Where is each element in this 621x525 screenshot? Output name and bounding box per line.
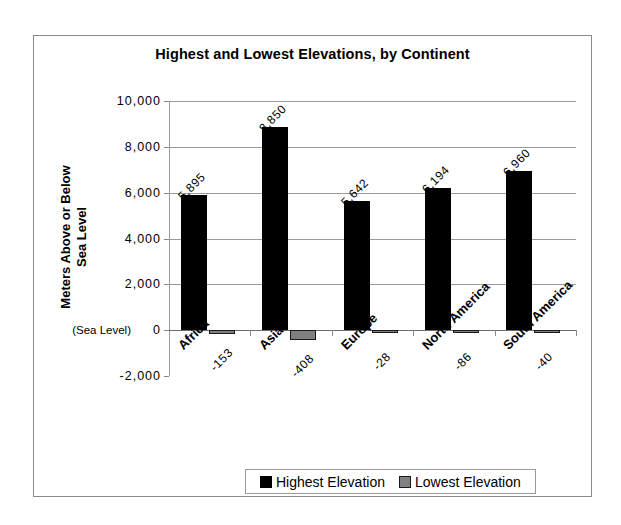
y-tick-label-10000: 10,000 (117, 94, 161, 108)
value-label-lowest-south-america: -40 (532, 350, 555, 373)
y-tick-label-4000: 4,000 (125, 232, 161, 246)
y-tick--2000 (164, 376, 169, 377)
bar-highest-europe (344, 201, 370, 330)
y-tick-label-8000: 8,000 (125, 140, 161, 154)
y-tick-0 (164, 330, 169, 331)
y-axis-title: Meters Above or Below Sea Level (58, 137, 90, 337)
category-tick (250, 330, 251, 336)
chart-title: Highest and Lowest Elevations, by Contin… (34, 46, 591, 62)
value-label-lowest-europe: -28 (370, 350, 393, 373)
value-label-lowest-asia: -408 (288, 351, 317, 380)
y-axis-title-line-1: Meters Above or Below (58, 165, 73, 308)
bar-highest-africa (181, 195, 207, 330)
y-tick-4000 (164, 239, 169, 240)
bar-lowest-north-america (453, 330, 479, 333)
legend-swatch-icon-lowest (399, 476, 411, 488)
bar-lowest-africa (209, 330, 235, 334)
y-tick-2000 (164, 284, 169, 285)
y-axis-title-line-2: Sea Level (74, 137, 90, 337)
bar-highest-asia (262, 127, 288, 330)
plot-area: 10,0008,0006,0004,0002,0000(Sea Level)-2… (169, 101, 576, 376)
chart-legend: Highest Elevation Lowest Elevation (245, 469, 536, 494)
y-tick-label-0: 0 (153, 323, 161, 337)
sea-level-annotation: (Sea Level) (72, 324, 131, 336)
legend-swatch-icon-highest (260, 476, 272, 488)
y-tick-8000 (164, 147, 169, 148)
bar-lowest-asia (290, 330, 316, 339)
y-tick-6000 (164, 193, 169, 194)
value-label-lowest-north-america: -86 (451, 350, 474, 373)
y-tick-label-6000: 6,000 (125, 186, 161, 200)
legend-item-lowest-elevation: Lowest Elevation (399, 474, 521, 490)
legend-label-highest: Highest Elevation (276, 474, 385, 490)
bar-highest-south-america (506, 171, 532, 331)
bar-lowest-south-america (534, 330, 560, 333)
category-tick (413, 330, 414, 336)
value-label-lowest-africa: -153 (207, 345, 236, 374)
chart-frame: Highest and Lowest Elevations, by Contin… (33, 35, 592, 497)
category-tick (332, 330, 333, 336)
bar-highest-north-america (425, 188, 451, 330)
gridline-8000 (169, 147, 576, 148)
category-tick (576, 330, 577, 336)
y-tick-label-2000: 2,000 (125, 277, 161, 291)
bar-lowest-europe (372, 330, 398, 333)
legend-item-highest-elevation: Highest Elevation (260, 474, 385, 490)
gridline-10000 (169, 101, 576, 102)
legend-label-lowest: Lowest Elevation (415, 474, 521, 490)
y-tick-label--2000: -2,000 (120, 369, 161, 383)
y-tick-10000 (164, 101, 169, 102)
category-tick (495, 330, 496, 336)
